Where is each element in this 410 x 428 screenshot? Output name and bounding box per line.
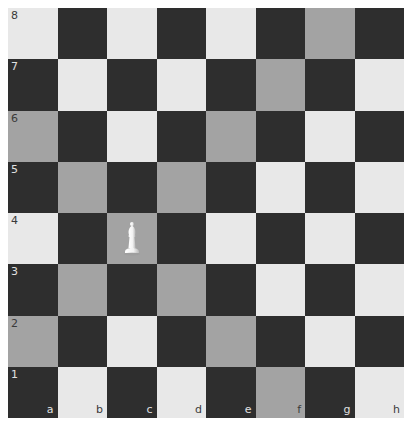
file-label-e: e <box>245 404 252 416</box>
square-h1[interactable]: h <box>355 367 405 418</box>
square-a1[interactable]: 1a <box>8 367 58 418</box>
square-e5[interactable] <box>206 162 256 213</box>
square-g8[interactable] <box>305 8 355 59</box>
square-e6[interactable] <box>206 111 256 162</box>
square-g5[interactable] <box>305 162 355 213</box>
square-f7[interactable] <box>256 59 306 110</box>
square-a5[interactable]: 5 <box>8 162 58 213</box>
square-c3[interactable] <box>107 264 157 315</box>
rank-label-5: 5 <box>11 164 18 176</box>
square-d5[interactable] <box>157 162 207 213</box>
square-b6[interactable] <box>58 111 108 162</box>
square-d8[interactable] <box>157 8 207 59</box>
square-a6[interactable]: 6 <box>8 111 58 162</box>
rank-label-7: 7 <box>11 61 18 73</box>
square-c2[interactable] <box>107 316 157 367</box>
rank-label-3: 3 <box>11 266 18 278</box>
square-b7[interactable] <box>58 59 108 110</box>
square-b1[interactable]: b <box>58 367 108 418</box>
square-d3[interactable] <box>157 264 207 315</box>
rank-label-2: 2 <box>11 318 18 330</box>
rank-label-1: 1 <box>11 369 18 381</box>
square-d7[interactable] <box>157 59 207 110</box>
square-d1[interactable]: d <box>157 367 207 418</box>
rank-label-4: 4 <box>11 215 18 227</box>
square-a4[interactable]: 4 <box>8 213 58 264</box>
square-c1[interactable]: c <box>107 367 157 418</box>
square-f1[interactable]: f <box>256 367 306 418</box>
chess-board: 87654321abcdefgh <box>8 8 404 418</box>
square-e8[interactable] <box>206 8 256 59</box>
file-label-b: b <box>96 404 103 416</box>
square-b3[interactable] <box>58 264 108 315</box>
square-g6[interactable] <box>305 111 355 162</box>
square-h4[interactable] <box>355 213 405 264</box>
square-e4[interactable] <box>206 213 256 264</box>
file-label-c: c <box>146 404 152 416</box>
square-c5[interactable] <box>107 162 157 213</box>
square-h6[interactable] <box>355 111 405 162</box>
square-f6[interactable] <box>256 111 306 162</box>
file-label-h: h <box>393 404 400 416</box>
square-h5[interactable] <box>355 162 405 213</box>
file-label-g: g <box>344 404 351 416</box>
square-f3[interactable] <box>256 264 306 315</box>
square-g3[interactable] <box>305 264 355 315</box>
square-f8[interactable] <box>256 8 306 59</box>
white-bishop-icon[interactable] <box>107 213 157 264</box>
square-d2[interactable] <box>157 316 207 367</box>
square-c8[interactable] <box>107 8 157 59</box>
square-h8[interactable] <box>355 8 405 59</box>
file-label-d: d <box>195 404 202 416</box>
square-g1[interactable]: g <box>305 367 355 418</box>
square-e2[interactable] <box>206 316 256 367</box>
square-h7[interactable] <box>355 59 405 110</box>
square-h2[interactable] <box>355 316 405 367</box>
square-d4[interactable] <box>157 213 207 264</box>
rank-label-8: 8 <box>11 10 18 22</box>
square-g4[interactable] <box>305 213 355 264</box>
square-f4[interactable] <box>256 213 306 264</box>
square-b8[interactable] <box>58 8 108 59</box>
file-label-f: f <box>297 404 301 416</box>
square-e1[interactable]: e <box>206 367 256 418</box>
square-a2[interactable]: 2 <box>8 316 58 367</box>
square-f2[interactable] <box>256 316 306 367</box>
square-e7[interactable] <box>206 59 256 110</box>
square-f5[interactable] <box>256 162 306 213</box>
square-a3[interactable]: 3 <box>8 264 58 315</box>
square-h3[interactable] <box>355 264 405 315</box>
rank-label-6: 6 <box>11 113 18 125</box>
square-c4[interactable] <box>107 213 157 264</box>
square-b5[interactable] <box>58 162 108 213</box>
square-g7[interactable] <box>305 59 355 110</box>
square-b2[interactable] <box>58 316 108 367</box>
square-b4[interactable] <box>58 213 108 264</box>
square-c7[interactable] <box>107 59 157 110</box>
file-label-a: a <box>47 404 54 416</box>
square-e3[interactable] <box>206 264 256 315</box>
square-g2[interactable] <box>305 316 355 367</box>
square-a7[interactable]: 7 <box>8 59 58 110</box>
square-d6[interactable] <box>157 111 207 162</box>
square-a8[interactable]: 8 <box>8 8 58 59</box>
square-c6[interactable] <box>107 111 157 162</box>
